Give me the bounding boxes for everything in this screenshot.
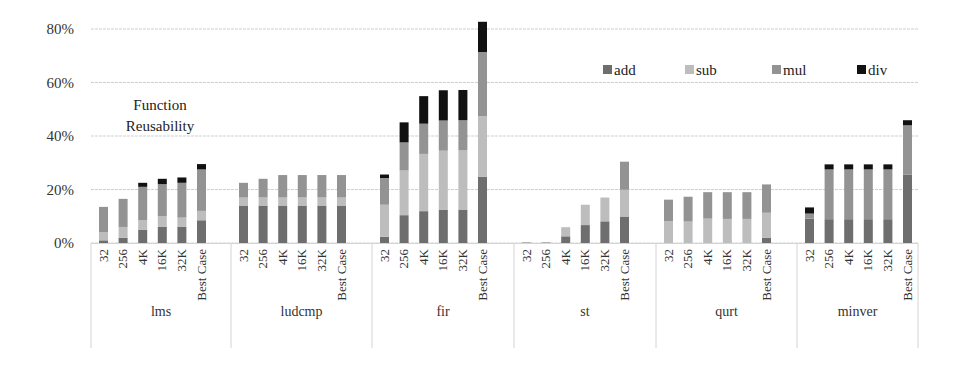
- bar-segment-mul: [458, 120, 467, 150]
- group-label-ludcmp: ludcmp: [281, 304, 323, 319]
- bar-segment-div: [864, 164, 873, 169]
- bar-segment-add: [439, 210, 448, 243]
- x-tick-label: 256: [538, 249, 553, 269]
- x-tick-label: 16K: [294, 248, 309, 271]
- x-tick-label: 32K: [739, 248, 754, 271]
- bar-segment-sub: [684, 222, 693, 243]
- x-tick-label: 32K: [455, 248, 470, 271]
- y-axis: 0%20%40%60%80%: [47, 21, 75, 251]
- bar-segment-div: [844, 164, 853, 169]
- x-tick-label: 256: [255, 249, 270, 269]
- bar-segment-sub: [158, 216, 167, 227]
- bar-segment-mul: [119, 199, 128, 227]
- bar-segment-mul: [158, 184, 167, 216]
- bar-segment-div: [177, 177, 186, 182]
- bar-segment-add: [762, 238, 771, 243]
- bar-segment-mul: [620, 162, 629, 190]
- legend-swatch-div: [857, 65, 866, 74]
- bar-segment-add: [380, 237, 389, 243]
- bar-segment-mul: [703, 192, 712, 218]
- bar-segment-add: [620, 217, 629, 243]
- bar-segment-div: [458, 90, 467, 120]
- y-tick-label: 40%: [47, 128, 75, 144]
- bar-segment-div: [158, 179, 167, 184]
- bar-segment-add: [903, 175, 912, 243]
- group-label-qurt: qurt: [715, 304, 738, 319]
- bar-segment-sub: [478, 116, 487, 176]
- bar-segment-sub: [138, 220, 147, 229]
- bar-segment-mul: [742, 192, 751, 219]
- bar-segment-mul: [400, 142, 409, 170]
- bar-segment-mul: [380, 178, 389, 205]
- bar-segment-div: [805, 207, 814, 213]
- bar-segment-add: [561, 236, 570, 243]
- bar-segment-mul: [317, 175, 326, 197]
- x-tick-label: 32K: [314, 248, 329, 271]
- x-tick-label: Best Case: [900, 249, 915, 301]
- bar-segment-add: [600, 221, 609, 243]
- bar-segment-mul: [762, 184, 771, 212]
- y-tick-label: 20%: [47, 182, 75, 198]
- bar-segment-div: [197, 164, 206, 169]
- bar-segment-div: [883, 164, 892, 169]
- bar-segment-sub: [177, 218, 186, 227]
- bar-segment-sub: [197, 211, 206, 220]
- x-tick-label: 4K: [135, 248, 150, 265]
- x-tick-label: 32K: [597, 248, 612, 271]
- bar-segment-sub: [458, 150, 467, 209]
- bar-segment-div: [419, 96, 428, 124]
- bar-segment-sub: [561, 227, 570, 236]
- x-tick-label: 16K: [719, 248, 734, 271]
- bar-segment-add: [119, 238, 128, 243]
- bar-segment-mul: [337, 175, 346, 197]
- x-axis: 322564K16K32KBest Caselms322564K16K32KBe…: [91, 243, 918, 348]
- bar-segment-mul: [723, 192, 732, 219]
- x-tick-label: 32K: [174, 248, 189, 271]
- x-tick-label: 16K: [435, 248, 450, 271]
- x-tick-label: 4K: [558, 248, 573, 265]
- bar-segment-add: [99, 240, 108, 243]
- bar-segment-sub: [119, 227, 128, 238]
- bar-segment-add: [400, 215, 409, 243]
- x-tick-label: 4K: [700, 248, 715, 265]
- legend-swatch-mul: [772, 65, 781, 74]
- bar-segment-div: [400, 122, 409, 142]
- bar-segment-mul: [825, 169, 834, 219]
- legend: addsubmuldiv: [603, 62, 888, 78]
- legend-label-div: div: [868, 62, 888, 78]
- x-tick-label: 256: [115, 249, 130, 269]
- bar-segment-div: [478, 22, 487, 52]
- bar-segment-add: [298, 206, 307, 243]
- x-tick-label: 32: [661, 249, 676, 262]
- bar-segment-add: [581, 225, 590, 243]
- legend-label-mul: mul: [783, 62, 806, 78]
- legend-swatch-add: [603, 65, 612, 74]
- bar-segment-add: [239, 206, 248, 243]
- bar-segment-mul: [439, 120, 448, 150]
- bar-segment-sub: [400, 171, 409, 216]
- x-tick-label: Best Case: [617, 249, 632, 301]
- bar-segment-add: [458, 210, 467, 243]
- bar-segment-add: [844, 219, 853, 243]
- bar-segment-sub: [380, 205, 389, 237]
- x-tick-label: Best Case: [475, 249, 490, 301]
- bar-segment-add: [197, 220, 206, 243]
- group-label-fir: fir: [436, 304, 450, 319]
- bar-segment-div: [825, 164, 834, 169]
- bar-segment-mul: [684, 197, 693, 222]
- x-tick-label: 256: [680, 249, 695, 269]
- x-tick-label: Best Case: [194, 249, 209, 301]
- y-tick-label: 80%: [47, 21, 75, 37]
- x-tick-label: 16K: [154, 248, 169, 271]
- bar-segment-mul: [844, 169, 853, 219]
- bar-segment-sub: [278, 198, 287, 206]
- bar-segment-mul: [419, 124, 428, 154]
- bar-segment-sub: [600, 198, 609, 222]
- y-tick-label: 0%: [54, 235, 74, 251]
- legend-label-sub: sub: [696, 62, 717, 78]
- group-label-lms: lms: [151, 304, 171, 319]
- x-tick-label: 256: [821, 249, 836, 269]
- bar-segment-sub: [337, 198, 346, 206]
- bar-segment-mul: [177, 183, 186, 218]
- bar-segment-add: [138, 230, 147, 243]
